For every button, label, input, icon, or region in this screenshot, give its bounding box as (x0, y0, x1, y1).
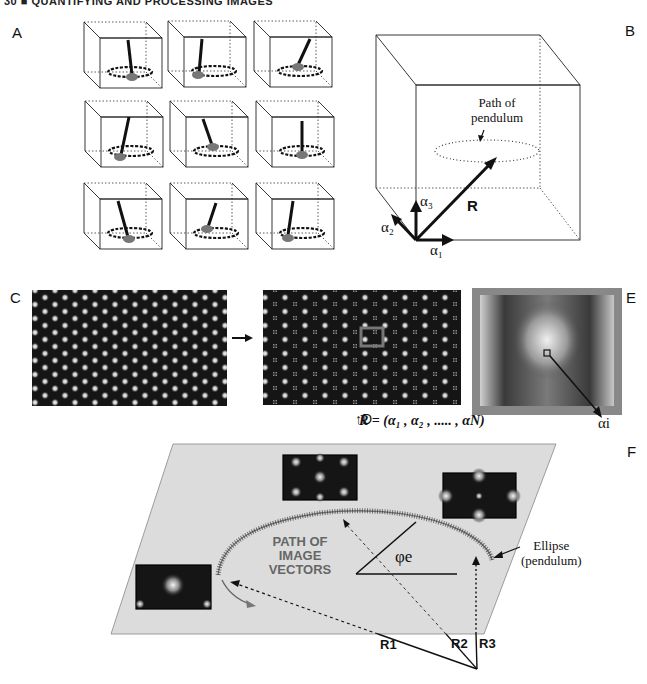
ellipse-label-line-1: Ellipse (521, 538, 582, 553)
phi-e-angle-label: φe (395, 547, 412, 567)
path-text-line-2: IMAGE (265, 549, 335, 563)
vector-r3-label: R3 (479, 636, 496, 651)
thumbnail-top (283, 453, 357, 502)
panel-f-vector-plane (0, 0, 647, 684)
ellipse-label-line-2: (pendulum) (521, 553, 582, 568)
ellipse-pendulum-label: Ellipse (pendulum) (521, 538, 582, 568)
path-text-line-1: PATH OF (265, 535, 335, 549)
thumbnail-right (438, 468, 521, 523)
path-text-line-3: VECTORS (265, 563, 335, 577)
vector-r2-label: R2 (451, 636, 468, 651)
path-of-image-vectors-label: PATH OF IMAGE VECTORS (265, 535, 335, 577)
vector-r1-label: R1 (380, 637, 397, 652)
thumbnail-left (135, 565, 212, 609)
